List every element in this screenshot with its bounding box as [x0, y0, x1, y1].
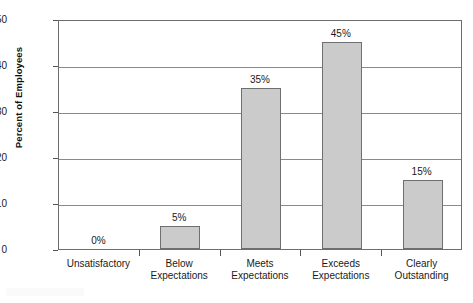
bar	[322, 42, 362, 249]
bar-value-label: 0%	[73, 236, 123, 246]
bar	[241, 88, 281, 249]
y-tick-label: 40	[0, 61, 7, 71]
plot-area	[58, 20, 462, 250]
x-category-label: Unsatisfactory	[58, 258, 139, 270]
x-category-label: Meets Expectations	[220, 258, 301, 282]
y-tick-label: 10	[0, 199, 7, 209]
bar-value-label: 15%	[397, 167, 447, 177]
bar	[160, 226, 200, 249]
watermark-artifact	[6, 288, 84, 296]
bar-value-label: 45%	[316, 29, 366, 39]
x-category-label: Below Expectations	[139, 258, 220, 282]
bar-value-label: 5%	[154, 213, 204, 223]
x-category-label: Exceeds Expectations	[300, 258, 381, 282]
x-tick-mark	[300, 250, 301, 256]
bar	[403, 180, 443, 249]
y-tick-label: 50	[0, 15, 7, 25]
bar-value-label: 35%	[235, 75, 285, 85]
chart-screenshot: Percent of Employees 01020304050 0%5%35%…	[0, 0, 473, 303]
x-category-label: Clearly Outstanding	[381, 258, 462, 282]
y-axis-title: Percent of Employees	[13, 18, 24, 178]
y-tick-label: 20	[0, 153, 7, 163]
x-tick-mark	[139, 250, 140, 256]
x-tick-mark	[381, 250, 382, 256]
y-tick-label: 0	[0, 245, 7, 255]
y-tick-label: 30	[0, 107, 7, 117]
gridline	[59, 67, 461, 68]
x-tick-mark	[220, 250, 221, 256]
y-tick-mark	[53, 250, 58, 251]
